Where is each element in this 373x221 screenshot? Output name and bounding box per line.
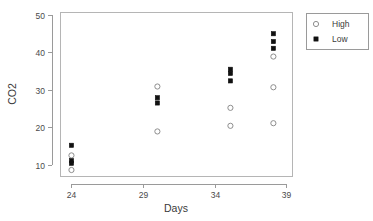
data-point-high xyxy=(271,54,276,59)
y-axis-tick-label: 40 xyxy=(36,48,46,58)
data-point-low xyxy=(69,161,73,165)
data-point-high xyxy=(228,105,233,110)
x-axis: 24293439 xyxy=(67,184,292,200)
legend-label-low: Low xyxy=(332,34,348,44)
x-axis-tick-label: 29 xyxy=(139,190,149,200)
legend-label-high: High xyxy=(332,19,350,29)
data-point-high xyxy=(69,167,74,172)
scatter-plot-figure: 24293439 1020304050 HighLow Days CO2 xyxy=(0,0,373,221)
y-axis-tick-label: 10 xyxy=(36,161,46,171)
data-point-high xyxy=(228,123,233,128)
data-point-low xyxy=(155,101,159,105)
plot-canvas: 24293439 1020304050 HighLow Days CO2 xyxy=(0,0,373,221)
data-point-high xyxy=(69,153,74,158)
data-point-low xyxy=(271,39,275,43)
y-axis-tick-label: 30 xyxy=(36,86,46,96)
data-point-high xyxy=(271,85,276,90)
legend-marker-low xyxy=(314,37,318,41)
data-point-low xyxy=(228,71,232,75)
data-points xyxy=(69,32,276,173)
x-axis-tick-label: 39 xyxy=(282,190,292,200)
data-point-low xyxy=(271,46,275,50)
plot-frame xyxy=(61,13,293,177)
x-axis-tick-label: 34 xyxy=(211,190,221,200)
plot-frame-rect xyxy=(61,13,293,177)
data-point-low xyxy=(228,79,232,83)
data-point-high xyxy=(155,129,160,134)
y-axis-title: CO2 xyxy=(6,83,18,105)
data-point-high xyxy=(271,121,276,126)
legend: HighLow xyxy=(307,14,369,50)
data-point-high xyxy=(155,84,160,89)
y-axis-tick-label: 20 xyxy=(36,123,46,133)
data-point-low xyxy=(228,67,232,71)
data-point-low xyxy=(155,96,159,100)
x-axis-title: Days xyxy=(164,202,188,214)
x-axis-tick-label: 24 xyxy=(67,190,77,200)
data-point-low xyxy=(271,32,275,36)
y-axis-tick-label: 50 xyxy=(36,11,46,21)
y-axis: 1020304050 xyxy=(36,11,53,171)
data-point-low xyxy=(69,143,73,147)
